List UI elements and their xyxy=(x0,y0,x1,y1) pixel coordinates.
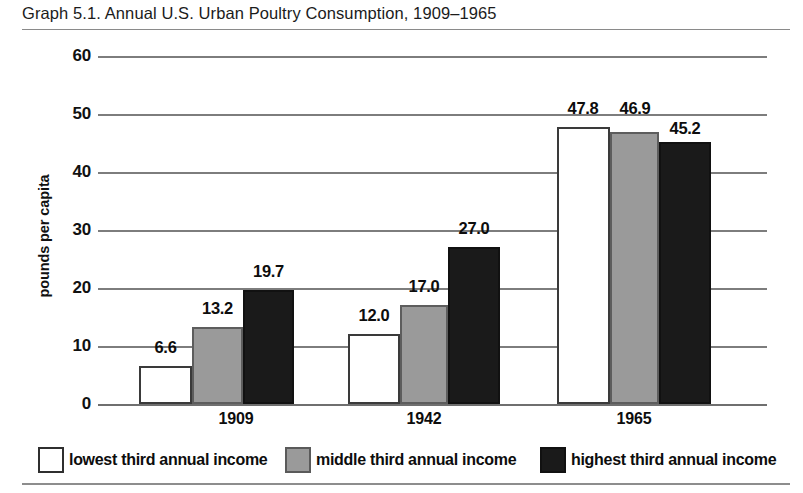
y-tick-0: 0 xyxy=(31,394,91,414)
legend-label-lowest: lowest third annual income xyxy=(69,451,267,469)
bar-1909-middle[interactable] xyxy=(192,327,243,404)
bar-1965-highest[interactable] xyxy=(659,142,711,404)
legend-swatch-black-icon xyxy=(540,447,566,473)
legend-item-lowest[interactable]: lowest third annual income xyxy=(38,445,267,475)
bar-1942-middle[interactable] xyxy=(400,305,448,404)
y-tick-30: 30 xyxy=(31,220,91,240)
y-tick-50: 50 xyxy=(31,104,91,124)
gridline-60 xyxy=(98,56,767,58)
x-axis-group-label-1942: 1942 xyxy=(364,410,484,428)
bar-1909-lowest[interactable] xyxy=(139,366,192,404)
bar-1909-highest[interactable] xyxy=(243,290,294,404)
bar-1942-highest[interactable] xyxy=(448,247,500,404)
legend-label-middle: middle third annual income xyxy=(316,451,516,469)
x-axis-baseline xyxy=(98,404,767,406)
y-tick-40: 40 xyxy=(31,162,91,182)
chart-figure: Graph 5.1. Annual U.S. Urban Poultry Con… xyxy=(0,0,803,493)
bar-value-1942-highest: 27.0 xyxy=(437,219,511,238)
bar-value-1965-middle: 46.9 xyxy=(598,99,672,118)
legend-label-highest: highest third annual income xyxy=(571,451,776,469)
bar-1965-lowest[interactable] xyxy=(557,127,610,404)
legend-divider xyxy=(22,483,790,485)
bar-1965-middle[interactable] xyxy=(610,132,659,404)
plot-area: pounds per capita 60 50 40 30 20 10 0 6.… xyxy=(0,0,803,420)
x-axis-group-label-1965: 1965 xyxy=(574,410,694,428)
legend-item-middle[interactable]: middle third annual income xyxy=(285,445,516,475)
legend-swatch-gray-icon xyxy=(285,447,311,473)
legend-swatch-white-icon xyxy=(38,447,64,473)
legend-item-highest[interactable]: highest third annual income xyxy=(540,445,776,475)
y-tick-10: 10 xyxy=(31,336,91,356)
y-tick-60: 60 xyxy=(31,46,91,66)
x-axis-group-label-1909: 1909 xyxy=(176,410,296,428)
bar-1942-lowest[interactable] xyxy=(348,334,400,404)
y-tick-20: 20 xyxy=(31,278,91,298)
bar-value-1909-highest: 19.7 xyxy=(232,262,305,281)
chart-legend: lowest third annual income middle third … xyxy=(0,445,803,479)
bar-value-1965-highest: 45.2 xyxy=(648,119,722,138)
